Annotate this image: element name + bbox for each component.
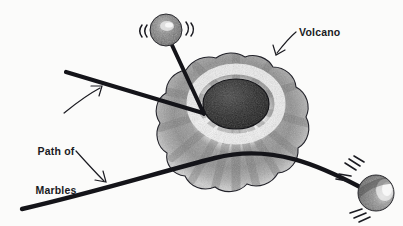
marble-top	[140, 12, 194, 48]
volcano-body	[150, 48, 320, 198]
marble-right	[336, 156, 396, 222]
volcano-label: Volcano	[299, 26, 340, 39]
path-of-marbles-label: Path of Marbles	[25, 119, 87, 223]
volcano-marbles-illustration: Volcano Path of Marbles	[0, 0, 403, 226]
volcano-callout-arrow	[273, 32, 296, 55]
path-of-marbles-label-line1: Path of	[25, 145, 87, 158]
path-upper-callout-arrow	[64, 86, 102, 113]
path-of-marbles-label-line2: Marbles	[25, 184, 87, 197]
